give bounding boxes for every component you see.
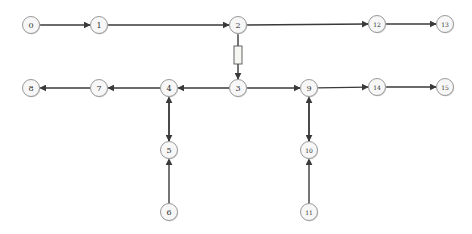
node-label: 11 xyxy=(305,209,313,216)
node-label: 14 xyxy=(373,84,381,91)
node-10: 10 xyxy=(301,142,319,160)
node-7: 7 xyxy=(91,80,109,98)
node-11: 11 xyxy=(301,204,319,222)
node-label: 9 xyxy=(306,84,311,93)
node-label: 6 xyxy=(166,208,171,217)
node-12: 12 xyxy=(369,16,387,34)
node-15: 15 xyxy=(437,79,455,97)
node-5: 5 xyxy=(161,142,179,160)
node-label: 5 xyxy=(166,146,171,155)
edge-9-to-14 xyxy=(317,87,368,88)
edge-box-2-to-3 xyxy=(234,46,242,64)
node-label: 15 xyxy=(441,84,449,91)
node-9: 9 xyxy=(301,80,319,98)
node-4: 4 xyxy=(161,80,179,98)
node-label: 12 xyxy=(373,21,381,28)
node-label: 3 xyxy=(235,84,240,93)
node-label: 0 xyxy=(28,21,33,30)
node-13: 13 xyxy=(437,16,455,34)
node-label: 1 xyxy=(96,21,101,30)
node-label: 4 xyxy=(166,84,171,93)
node-0: 0 xyxy=(23,17,41,35)
node-14: 14 xyxy=(369,79,387,97)
node-label: 13 xyxy=(441,21,449,28)
edge-box-layer xyxy=(234,46,242,64)
node-8: 8 xyxy=(23,80,41,98)
node-3: 3 xyxy=(230,80,248,98)
node-6: 6 xyxy=(161,204,179,222)
node-label: 10 xyxy=(305,147,313,154)
graph-canvas: 0121213874391415510611 xyxy=(0,0,472,234)
node-label: 2 xyxy=(235,21,240,30)
node-1: 1 xyxy=(91,17,109,35)
node-2: 2 xyxy=(230,17,248,35)
edge-2-to-12 xyxy=(246,24,368,25)
node-label: 8 xyxy=(28,84,33,93)
node-label: 7 xyxy=(96,84,101,93)
